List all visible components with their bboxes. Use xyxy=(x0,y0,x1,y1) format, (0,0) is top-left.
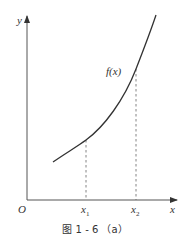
curve-label: f(x) xyxy=(106,65,122,78)
figure-caption: 图 1 - 6 （a） xyxy=(62,224,127,235)
function-graph: y O x f(x) x1 x2 图 1 - 6 （a） xyxy=(0,0,190,241)
x-axis-label: x xyxy=(169,203,175,215)
x1-label: x1 xyxy=(80,203,90,218)
function-curve xyxy=(53,15,156,162)
y-axis-label: y xyxy=(16,14,22,26)
x2-label: x2 xyxy=(130,203,140,218)
origin-label: O xyxy=(18,203,26,215)
